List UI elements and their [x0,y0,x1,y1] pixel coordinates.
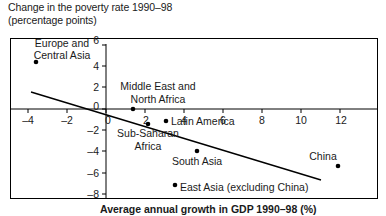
data-point-middle-east-and-north-africa[interactable] [131,107,136,112]
x-tick-label: 12 [335,114,347,126]
y-tick-label: 0 [93,100,99,112]
x-tick-label: –2 [61,114,73,126]
data-point-china[interactable] [336,164,341,169]
x-axis-caption: Average annual growth in GDP 1990–98 (%) [100,203,317,215]
point-label-middle-east-and-north-africa-line-2: North Africa [131,93,186,105]
y-tick-label: –4 [87,145,99,157]
x-tick-label: 10 [295,114,307,126]
y-tick-label: 4 [93,60,99,72]
scatter-plot: –4 –2 0 2 4 6 8 10 12 6 4 2 0 –2 –4 –6 –… [0,0,386,216]
data-point-east-asia-excluding-china[interactable] [173,183,178,188]
x-tick-label: –4 [22,114,34,126]
y-tick-label: –6 [87,167,99,179]
point-label-latin-america: Latin America [171,115,235,127]
data-point-sub-saharan-africa[interactable] [146,122,151,127]
point-label-middle-east-and-north-africa-line-1: Middle East and [120,80,195,92]
y-tick-label: 6 [93,34,99,46]
point-label-south-asia: South Asia [172,155,222,167]
y-tick-label: –2 [87,124,99,136]
data-point-south-asia[interactable] [195,149,200,154]
point-label-europe-and-central-asia-line-1: Europe and [35,37,89,49]
point-label-sub-saharan-africa-line-1: Sub-Saharan [117,127,179,139]
y-tick-label: –8 [87,188,99,200]
y-tick-label: 2 [93,81,99,93]
point-label-china: China [309,150,337,162]
point-label-east-asia-excluding-china: East Asia (excluding China) [180,181,308,193]
chart-figure: Change in the poverty rate 1990–98 (perc… [0,0,386,216]
point-label-sub-saharan-africa-line-2: Africa [135,140,162,152]
point-label-europe-and-central-asia-line-2: Central Asia [34,49,91,61]
x-tick-label: 8 [259,114,265,126]
data-point-latin-america[interactable] [164,119,169,124]
